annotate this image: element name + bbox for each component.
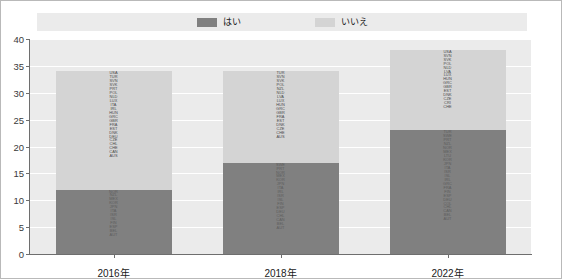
y-tick-mark [26,200,30,201]
legend-swatch-no [315,18,335,27]
bar-2016年[interactable]: NORNZLMEXKORJPNITAISRISLFINESPBELAUTUSAT… [56,39,172,254]
x-tick-mark [114,254,115,258]
bar-segment-no[interactable]: USASVNSVKPOLNLDLVALUXHUNGRCGBRESTDNKCZEC… [390,50,506,131]
country-code: AUS [276,135,284,139]
bar-2018年[interactable]: SWEPRTNORMEXKORJPNITAIRLISRISLFINESPDEUC… [223,39,339,254]
y-tick-mark [26,147,30,148]
bar-segment-no[interactable]: USATURSVNSVKPRTPOLNLDLUXITAIRLHUNGRCGBRF… [56,71,172,189]
bar-segment-yes[interactable]: SWEPRTNORMEXKORJPNITAIRLISRISLFINESPDEUC… [223,163,339,254]
bar-segment-yes[interactable]: TURSWEPRTNZLNORMEXLTUKORJPNITAISRISLIRLG… [390,130,506,254]
country-code: AUT [277,226,285,230]
legend-swatch-yes [197,18,217,27]
y-tick-mark [26,173,30,174]
y-tick-label: 20 [13,141,24,152]
y-tick-mark [26,39,30,40]
chart-figure: はい いいえ NORNZLMEXKORJPNITAISRISLFINESPBEL… [0,0,562,279]
legend-label-yes: はい [223,18,241,27]
y-tick-mark [26,66,30,67]
bar-segment-no[interactable]: TURSVNSVKPOLNZLNLDLVALUXHUNGRCGBRFRAESTD… [223,71,339,162]
x-tick-label: 2022年 [431,265,463,279]
x-tick-label: 2018年 [264,265,296,279]
x-tick-mark [448,254,449,258]
legend-item-yes[interactable]: はい [197,18,241,27]
y-tick-label: 5 [19,222,24,233]
y-tick-label: 15 [13,168,24,179]
y-tick-label: 25 [13,114,24,125]
plot-frame: NORNZLMEXKORJPNITAISRISLFINESPBELAUTUSAT… [30,39,531,254]
country-code: AUS [109,154,117,158]
legend-label-no: いいえ [341,18,368,27]
bar-2022年[interactable]: TURSWEPRTNZLNORMEXLTUKORJPNITAISRISLIRLG… [390,39,506,254]
bar-segment-yes[interactable]: NORNZLMEXKORJPNITAISRISLFINESPBELAUT [56,190,172,255]
country-code: CHE [443,105,451,109]
country-code: AUT [444,217,452,221]
plot-area: NORNZLMEXKORJPNITAISRISLFINESPBELAUTUSAT… [30,39,531,254]
y-tick-label: 10 [13,195,24,206]
y-tick-label: 0 [19,249,24,260]
chart-legend: はい いいえ [37,13,527,31]
y-tick-mark [26,227,30,228]
x-tick-label: 2016年 [97,265,129,279]
y-tick-label: 30 [13,87,24,98]
legend-item-no[interactable]: いいえ [315,18,368,27]
country-code: AUT [110,233,118,237]
x-tick-mark [281,254,282,258]
y-tick-label: 35 [13,60,24,71]
y-tick-label: 40 [13,34,24,45]
y-tick-mark [26,120,30,121]
y-tick-mark [26,254,30,255]
y-tick-mark [26,93,30,94]
